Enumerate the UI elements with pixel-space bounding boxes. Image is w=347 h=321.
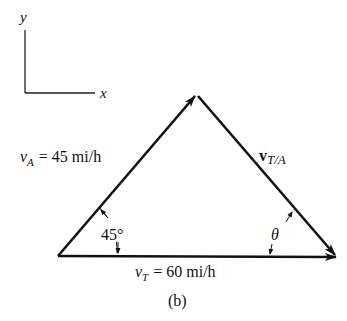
angle-45-marker: 45° <box>100 208 123 253</box>
y-axis-label: y <box>18 9 27 25</box>
vector-vT <box>58 256 336 257</box>
vT-label: vT= 60 mi/h <box>135 263 216 283</box>
angle-45-label: 45° <box>101 226 123 243</box>
vA-label: vA= 45 mi/h <box>20 148 101 168</box>
figure-caption: (b) <box>168 292 187 310</box>
angle-theta-label: θ <box>271 226 279 243</box>
coordinate-axes: y x <box>18 9 107 101</box>
vector-vTA <box>198 96 335 255</box>
x-axis-label: x <box>99 85 107 101</box>
angle-theta-marker: θ <box>270 212 292 254</box>
vTA-label: vT/A <box>259 147 286 167</box>
relative-velocity-diagram: y x 45° θ vA= 45 mi/h vT/A vT= 60 mi/h (… <box>0 0 347 321</box>
vector-vA <box>58 96 195 256</box>
